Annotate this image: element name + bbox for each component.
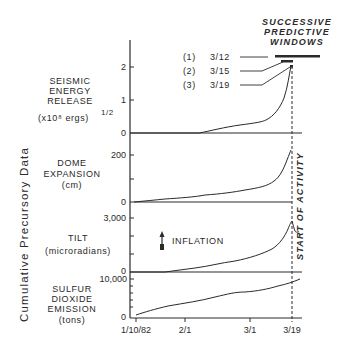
so2-label-2: DIOXIDE [51,294,92,304]
seismic-label-3: RELEASE [47,96,93,106]
window-2-bar [281,60,293,63]
dome-label-1: DOME [57,158,86,168]
x-tick-mar19: 3/19 [283,325,301,335]
inflation-annotation: INFLATION [172,236,224,246]
predictive-windows: SUCCESSIVE PREDICTIVE WINDOWS (1) 3/12 (… [183,17,332,90]
x-tick-jan10: 1/10/82 [121,325,151,335]
window-1-bar [275,55,320,58]
dome-label-2: EXPANSION [43,169,100,179]
seismic-label-1: SEISMIC [49,76,90,86]
seismic-label-2: ENERGY [49,86,91,96]
seismic-tick-2: 2 [121,62,126,72]
seismic-tick-0: 0 [121,128,126,138]
windows-title-1: SUCCESSIVE [262,17,332,27]
window-1-label: (1) [183,52,196,62]
panel-tilt: TILT (microradians) 3,000 0 INFLATION [45,213,302,276]
y-axis-title: Cumulative Precursory Data [18,147,30,322]
dome-tick-200: 200 [111,150,126,160]
x-tick-mar1: 3/1 [244,325,257,335]
dome-tick-0: 0 [121,197,126,207]
window-3-label: (3) [183,80,196,90]
so2-units: (tons) [59,315,86,325]
window-2-label: (2) [183,66,196,76]
x-tick-feb1: 2/1 [179,325,192,335]
panel-dome: DOME EXPANSION (cm) 200 0 [43,150,292,207]
so2-label-3: EMISSION [48,304,97,314]
dome-units: (cm) [62,180,82,190]
seismic-units-exponent: 1/2 [101,108,114,117]
window-3-bar [290,65,293,68]
cut-off-caption-fragment [0,347,337,353]
window-1-date: 3/12 [210,52,230,62]
inflation-arrow-icon [160,231,165,250]
windows-title-3: WINDOWS [270,37,324,47]
x-axis: 1/10/82 2/1 3/1 3/19 [121,318,301,335]
seismic-tick-1: 1 [121,95,126,105]
so2-label-1: SULFUR [52,284,92,294]
tilt-tick-3000: 3,000 [103,213,126,223]
seismic-curve [130,66,291,133]
tilt-curve [130,221,299,272]
panel-seismic: SEISMIC ENERGY RELEASE (x10⁸ ergs) 1/2 2… [38,62,302,138]
tilt-label-1: TILT [68,233,88,243]
tilt-units: (microradians) [45,246,111,256]
window-3-date: 3/19 [210,80,230,90]
so2-tick-0: 0 [121,312,126,322]
so2-tick-10000: 10,000 [99,274,127,284]
dome-curve [134,150,291,202]
window-2-date: 3/15 [210,66,230,76]
start-of-activity-label: START OF ACTIVITY [295,152,305,260]
windows-title-2: PREDICTIVE [264,27,330,37]
seismic-units: (x10⁸ ergs) [38,113,89,123]
panel-so2: SULFUR DIOXIDE EMISSION (tons) 10,000 0 [48,274,302,325]
so2-curve [136,279,300,315]
precursory-data-chart: Cumulative Precursory Data SEISMIC ENERG… [0,0,337,353]
